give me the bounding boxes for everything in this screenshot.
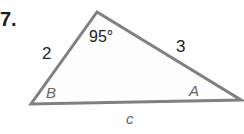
side-right-label: 3 xyxy=(176,37,185,56)
vertex-B-label: B xyxy=(46,84,56,101)
side-left-label: 2 xyxy=(42,44,51,63)
triangle-diagram: 95° 2 3 B A c xyxy=(0,0,244,134)
side-bottom-label: c xyxy=(126,110,134,127)
vertex-A-label: A xyxy=(188,82,199,99)
angle-top-label: 95° xyxy=(89,28,113,45)
triangle-shape xyxy=(31,12,241,104)
